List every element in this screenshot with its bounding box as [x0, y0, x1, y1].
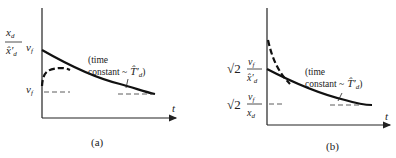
- y-lower-label: vf: [26, 83, 34, 97]
- y-lower-denominator: xd: [246, 107, 255, 120]
- y-lower-numerator: vf: [248, 91, 255, 104]
- annotation-line2: constant ~T̂′d): [305, 77, 362, 91]
- annotation-line1: (time: [88, 55, 108, 66]
- annotation-line1: (time: [305, 67, 325, 78]
- y-upper-denominator: x̂′d: [5, 44, 17, 58]
- x-axis-label: t: [172, 102, 176, 114]
- y-lower-sqrt: √2: [227, 97, 241, 112]
- panel-a: xd x̂′d vf vf (time constant ~T̂′d) t (a…: [5, 8, 176, 149]
- initial-curve: [268, 40, 290, 84]
- figure-diagram: xd x̂′d vf vf (time constant ~T̂′d) t (a…: [0, 0, 396, 158]
- annotation-line2: constant ~T̂′d): [88, 65, 145, 79]
- y-upper-multiplier: vf: [26, 41, 34, 55]
- y-upper-sqrt: √2: [227, 61, 241, 76]
- panel-label-b: (b): [326, 140, 339, 153]
- x-axis-label: t: [385, 110, 389, 122]
- y-upper-denominator: x̂′d: [246, 72, 258, 85]
- rising-curve: [42, 68, 70, 86]
- y-upper-numerator: vf: [248, 56, 255, 69]
- panel-label-a: (a): [91, 136, 104, 149]
- y-upper-numerator: xd: [5, 26, 15, 40]
- panel-b: √2 vf x̂′d √2 vf xd (time constant ~T̂′d…: [227, 8, 390, 153]
